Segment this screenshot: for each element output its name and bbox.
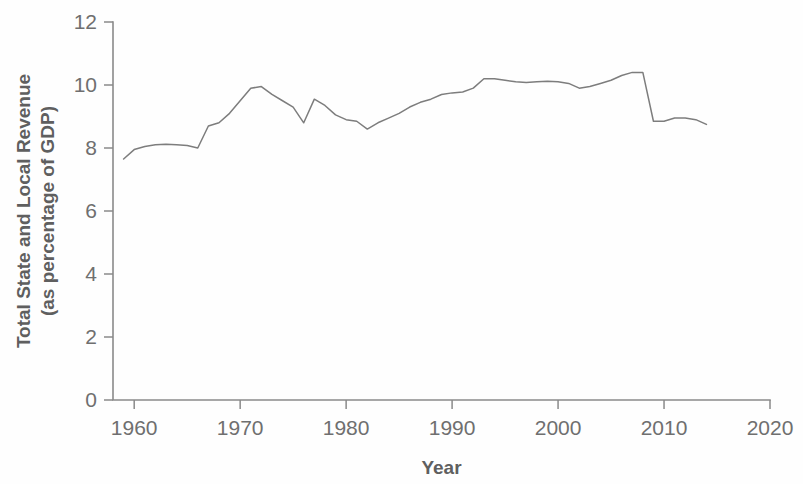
y-tick-label-6: 6 (85, 199, 97, 222)
y-tick-label-2: 2 (85, 325, 97, 348)
y-tick-label-10: 10 (74, 73, 97, 96)
chart-figure: 0246810121960197019801990200020102020Yea… (0, 0, 803, 484)
x-axis-title: Year (421, 457, 462, 478)
y-axis-title-line1: Total State and Local Revenue (13, 74, 34, 348)
x-tick-label-1980: 1980 (323, 416, 370, 439)
x-tick-label-2020: 2020 (747, 416, 794, 439)
y-tick-label-4: 4 (85, 262, 97, 285)
x-tick-label-1960: 1960 (111, 416, 158, 439)
x-tick-label-1990: 1990 (429, 416, 476, 439)
y-tick-label-0: 0 (85, 388, 97, 411)
data-series-line (124, 72, 707, 159)
x-tick-label-2000: 2000 (535, 416, 582, 439)
y-tick-label-8: 8 (85, 136, 97, 159)
chart-axes (113, 22, 770, 400)
y-tick-label-12: 12 (74, 10, 97, 33)
y-axis-title: Total State and Local Revenue(as percent… (13, 74, 58, 348)
y-axis-title-line2: (as percentage of GDP) (37, 106, 58, 316)
x-tick-label-2010: 2010 (641, 416, 688, 439)
line-chart: 0246810121960197019801990200020102020Yea… (0, 0, 803, 484)
x-tick-label-1970: 1970 (217, 416, 264, 439)
